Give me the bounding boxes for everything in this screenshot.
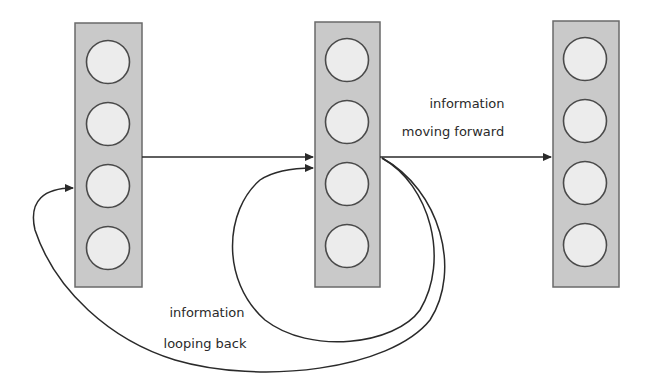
loop-label-line1: information bbox=[169, 305, 244, 320]
neuron-1-2 bbox=[87, 103, 130, 146]
loop-label-line2: looping back bbox=[164, 336, 247, 351]
forward-label-line1: information bbox=[429, 96, 504, 111]
neuron-2-2 bbox=[326, 101, 369, 144]
neuron-3-1 bbox=[564, 38, 607, 81]
layer-3 bbox=[553, 21, 619, 287]
layer-1 bbox=[75, 23, 142, 287]
rnn-diagram: information moving forward information l… bbox=[0, 0, 646, 391]
neuron-2-4 bbox=[326, 225, 369, 268]
neuron-2-3 bbox=[326, 163, 369, 206]
neuron-1-3 bbox=[87, 165, 130, 208]
neuron-3-3 bbox=[564, 162, 607, 205]
neuron-2-1 bbox=[326, 39, 369, 82]
neuron-1-4 bbox=[87, 227, 130, 270]
neuron-3-4 bbox=[564, 224, 607, 267]
neuron-1-1 bbox=[87, 41, 130, 84]
forward-label-line2: moving forward bbox=[402, 124, 504, 139]
neuron-3-2 bbox=[564, 100, 607, 143]
layer-2 bbox=[315, 22, 380, 287]
